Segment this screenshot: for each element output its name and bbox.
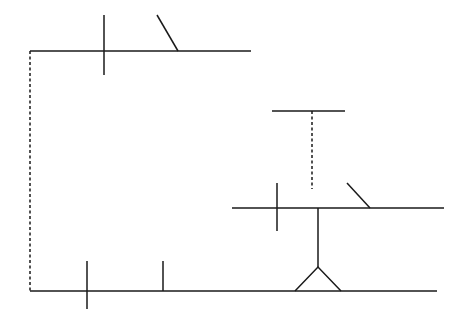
diagram-lines [30, 15, 444, 309]
top-diagonal [157, 15, 178, 51]
triangle-junction [295, 267, 341, 291]
middle-diagonal [347, 183, 370, 208]
diagram-canvas [0, 0, 468, 319]
